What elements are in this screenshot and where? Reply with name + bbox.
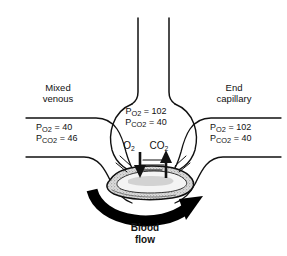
end-capillary-pco2: PCO2 = 40 xyxy=(210,133,286,144)
bronchiole-left-wall xyxy=(132,18,138,104)
end-capillary-po2-value: = 102 xyxy=(228,122,251,132)
alveolar-po2: PO2 = 102 xyxy=(112,106,180,117)
carbon-dioxide-symbol: CO xyxy=(150,140,165,151)
mixed-venous-po2: PO2 = 40 xyxy=(36,122,112,133)
end-capillary-heading-line2: capillary xyxy=(196,93,272,104)
carbon-dioxide-subscript: 2 xyxy=(165,145,169,152)
alveolar-pco2: PCO2 = 40 xyxy=(112,117,180,128)
end-capillary-heading-line1: End xyxy=(196,82,272,93)
mixed-venous-po2-subscript: O2 xyxy=(42,125,52,134)
mixed-venous-pco2: PCO2 = 46 xyxy=(36,133,112,144)
mixed-venous-measurements: PO2 = 40 PCO2 = 46 xyxy=(36,122,112,143)
end-capillary-pco2-subscript: CO2 xyxy=(216,136,231,145)
blood-flow-line2: flow xyxy=(113,234,177,246)
end-capillary-po2-subscript: O2 xyxy=(216,125,226,134)
oxygen-subscript: 2 xyxy=(131,145,135,152)
carbon-dioxide-label: CO2 xyxy=(142,140,176,152)
end-capillary-heading: End capillary xyxy=(196,82,272,104)
oxygen-label: O2 xyxy=(116,140,142,152)
gas-exchange-figure: Mixed venous End capillary PO2 = 40 PCO2… xyxy=(0,0,287,256)
end-capillary-po2: PO2 = 102 xyxy=(210,122,286,133)
alveolar-measurements: PO2 = 102 PCO2 = 40 xyxy=(112,106,180,127)
alveolar-po2-value: = 102 xyxy=(144,106,167,116)
gas-species-labels: O2CO2 xyxy=(110,140,182,152)
mixed-venous-heading: Mixed venous xyxy=(22,82,94,104)
bronchiole-right-wall xyxy=(169,18,175,104)
end-capillary-measurements: PO2 = 102 PCO2 = 40 xyxy=(210,122,286,143)
alveolar-po2-subscript: O2 xyxy=(131,109,141,118)
blood-flow-label: Blood flow xyxy=(113,222,177,246)
mixed-venous-heading-line1: Mixed xyxy=(22,82,94,93)
oxygen-symbol: O xyxy=(123,140,131,151)
alveolar-pco2-value: = 40 xyxy=(149,117,167,127)
alveolar-pco2-subscript: CO2 xyxy=(131,120,146,129)
mixed-venous-heading-line2: venous xyxy=(22,93,94,104)
blood-flow-line1: Blood xyxy=(113,222,177,234)
mixed-venous-po2-value: = 40 xyxy=(54,122,72,132)
mixed-venous-pco2-value: = 46 xyxy=(60,133,78,143)
mixed-venous-pco2-subscript: CO2 xyxy=(42,136,57,145)
end-capillary-pco2-value: = 40 xyxy=(234,133,252,143)
